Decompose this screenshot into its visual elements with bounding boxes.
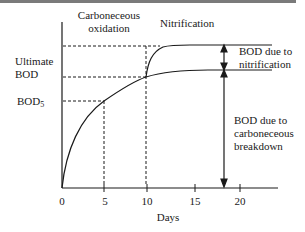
bod-nitrification-line2: nitrification xyxy=(239,58,292,71)
x-axis-label: Days xyxy=(157,211,180,223)
carbonaceous-label-line2: oxidation xyxy=(70,22,148,35)
bod-carbonaceous-line2: carboneceous xyxy=(234,127,294,140)
carbonaceous-arrow xyxy=(221,70,227,187)
x-tick-10: 10 xyxy=(142,195,153,207)
x-tick-20: 20 xyxy=(235,195,246,207)
dashed-guides xyxy=(63,46,160,186)
x-tick-0: 0 xyxy=(59,195,65,207)
nitrification-arrow xyxy=(221,45,227,70)
bod5-subscript: 5 xyxy=(40,100,44,109)
carbonaceous-label-line1: Carboneceous xyxy=(70,9,148,22)
nitrification-phase-label: Nitrification xyxy=(160,17,214,30)
x-tick-15: 15 xyxy=(190,195,201,207)
bod-nitrification-label: BOD due to nitrification xyxy=(239,45,292,71)
ultimate-bod-line1: Ultimate xyxy=(15,55,54,68)
carbonaceous-oxidation-label: Carboneceous oxidation xyxy=(70,9,148,35)
bod-carbonaceous-label: BOD due to carboneceous breakdown xyxy=(234,114,294,153)
bod5-main: BOD xyxy=(17,95,40,107)
bod-nitrification-line1: BOD due to xyxy=(239,45,292,58)
ultimate-bod-line2: BOD xyxy=(15,68,54,81)
bod5-label: BOD5 xyxy=(17,95,44,108)
bod-carbonaceous-line1: BOD due to xyxy=(234,114,294,127)
ultimate-bod-label: Ultimate BOD xyxy=(15,55,54,81)
bod-carbonaceous-line3: breakdown xyxy=(234,140,294,153)
x-tick-5: 5 xyxy=(102,195,108,207)
